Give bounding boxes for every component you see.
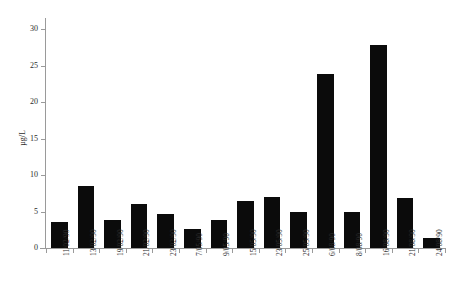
x-axis-tick-mark [126, 249, 127, 253]
x-axis-tick-label: 6/08/90 [328, 233, 337, 256]
x-axis-tick-mark [99, 249, 100, 253]
x-axis-tick-mark [392, 249, 393, 253]
x-axis-tick-label: 23/05/90 [275, 229, 284, 256]
x-axis-tick-label: 13/02/90 [89, 229, 98, 256]
bar-chart: µg/L 051015202530 11/02/9013/02/9019/02/… [0, 0, 449, 304]
x-axis-tick-label: 15/05/90 [249, 229, 258, 256]
bar [317, 74, 333, 248]
bar [370, 45, 386, 248]
x-axis-tick-label: 8/08/90 [355, 233, 364, 256]
x-axis-tick-label: 7/05/90 [195, 233, 204, 256]
x-axis-tick-mark [46, 249, 47, 253]
x-axis-tick-label: 24/08/90 [435, 229, 444, 256]
x-axis-tick-mark [312, 249, 313, 253]
x-axis-tick-label: 21/02/90 [142, 229, 151, 256]
x-axis-tick-mark [418, 249, 419, 253]
x-axis-tick-label: 16/08/90 [382, 229, 391, 256]
x-axis-tick-mark [206, 249, 207, 253]
x-axis-tick-mark [152, 249, 153, 253]
x-axis-tick-mark [259, 249, 260, 253]
x-axis-tick-label: 9/05/90 [222, 233, 231, 256]
x-axis-tick-mark [445, 249, 446, 253]
x-axis-tick-label: 19/02/90 [116, 229, 125, 256]
x-axis-tick-mark [232, 249, 233, 253]
x-axis-tick-mark [285, 249, 286, 253]
bars-layer [0, 0, 449, 249]
x-axis-tick-mark [339, 249, 340, 253]
x-axis-tick-label: 25/05/90 [302, 229, 311, 256]
x-axis-tick-mark [179, 249, 180, 253]
x-axis-tick-label: 21/08/90 [408, 229, 417, 256]
x-axis-tick-mark [365, 249, 366, 253]
x-axis-tick-label: 11/02/90 [62, 230, 71, 256]
x-axis-tick-mark [73, 249, 74, 253]
x-axis-tick-label: 23/02/90 [169, 229, 178, 256]
